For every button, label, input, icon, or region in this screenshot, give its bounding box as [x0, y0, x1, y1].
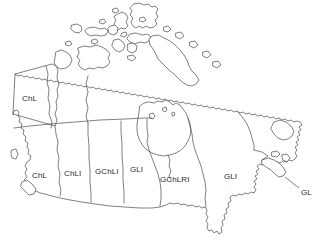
arctic-islet-1: [100, 19, 106, 24]
haida-gwaii-island: [11, 149, 18, 159]
melville-island: [85, 27, 108, 36]
prince-of-wales-island: [112, 39, 125, 52]
hudson-bay-island-3: [172, 112, 175, 116]
region-label-manitoba: GLI: [130, 166, 143, 174]
region-label-ontario: GChLRI: [160, 176, 190, 184]
maritimes-leader-line: [285, 177, 299, 188]
arctic-islet-7: [176, 32, 184, 39]
somerset-island: [128, 43, 137, 53]
region-label-saskatchewan: GChLI: [95, 168, 119, 176]
canada-outline-map: ChL ChL ChLI GChLI GLI GChLRI GLI GL: [0, 0, 324, 245]
arctic-islet-8: [190, 41, 198, 48]
region-label-quebec: GLI: [224, 173, 237, 181]
region-label-maritimes: GL: [301, 189, 312, 197]
prince-patrick-island: [71, 24, 82, 33]
victoria-island: [77, 45, 110, 70]
arctic-islet-11: [66, 41, 72, 46]
arctic-islet-4: [113, 8, 119, 13]
arctic-islet-10: [213, 61, 221, 68]
arctic-islet-12: [128, 55, 136, 61]
map-svg: [0, 0, 324, 245]
banks-island: [54, 50, 72, 69]
devon-island: [127, 33, 151, 44]
region-label-yukon: ChL: [22, 95, 37, 103]
bathurst-island: [108, 25, 118, 35]
region-label-alberta: ChLI: [64, 170, 81, 178]
region-label-british-columbia: ChL: [32, 172, 47, 180]
arctic-islet-5: [92, 39, 98, 44]
arctic-islet-6: [164, 26, 171, 32]
arctic-islet-9: [203, 51, 211, 58]
ellesmere-island: [130, 3, 158, 28]
arctic-islet-2: [121, 32, 127, 37]
